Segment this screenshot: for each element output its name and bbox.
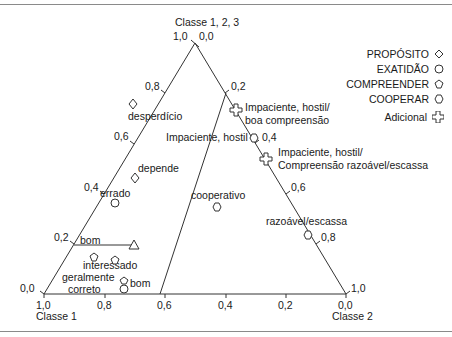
pentagon-icon [90,253,98,261]
bottom-tick-06: 0,6 [157,299,172,311]
pentagon-icon [111,256,119,264]
pentagon-icon [434,79,444,89]
label-impaciente-boa-1: Impaciente, hostil/ [245,101,330,113]
label-impaciente-boa-2: boa compreensão [245,114,329,126]
label-impaciente-raz-2: Compreensão razoável/escassa [278,159,428,171]
legend-item-proposito: PROPÓSITO [330,46,444,61]
label-desperdicio: desperdício [128,110,182,122]
bottom-tick-02: 0,2 [278,299,293,311]
cross-icon [432,111,444,123]
label-bom-top: bom [80,234,101,246]
left-tick-04: 0,4 [84,181,99,193]
cross-icon [230,104,242,116]
right-tick-06: 0,6 [291,181,306,193]
right-tick-08: 0,8 [321,231,336,243]
circle-icon [120,285,128,293]
label-razoavel: razoável/escassa [266,215,347,227]
left-tick-00: 0,0 [20,282,35,294]
pentagon-icon [120,277,128,284]
circle-icon [434,64,444,74]
label-impaciente-hostil: Impaciente, hostil [166,131,248,143]
bottom-right-axis-label: Classe 2 [332,310,373,322]
apex-axis-title: Classe 1, 2, 3 [175,16,239,28]
label-depende: depende [138,162,179,174]
apex-right-tick: 0,0 [199,30,214,42]
circle-icon [111,199,119,207]
right-tick-04: 0,4 [262,131,277,143]
label-cooperativo: cooperativo [191,189,245,201]
diamond-icon [434,49,444,59]
legend: PROPÓSITO EXATIDÃO COMPREENDER COOPERAR … [330,46,444,124]
right-tick-02: 0,2 [231,80,246,92]
left-tick-02: 0,2 [54,231,69,243]
label-geralmente: geralmente [62,271,115,283]
left-tick-08: 0,8 [145,80,160,92]
hexagon-icon [304,231,312,239]
diamond-icon [131,173,139,183]
apex-left-tick: 1,0 [173,30,188,42]
apex-mark [191,40,199,47]
legend-item-compreender: COMPREENDER [330,76,444,91]
hexagon-icon [250,134,258,142]
label-interessado: interessado [83,259,137,271]
legend-item-adicional: Adicional [330,109,444,124]
diamond-icon [129,99,137,109]
hexagon-icon [434,94,444,104]
legend-item-exatidao: EXATIDÃO [330,61,444,76]
legend-item-cooperar: COOPERAR [330,91,444,106]
bottom-tick-08: 0,8 [97,299,112,311]
label-impaciente-raz-1: Impaciente, hostil/ [278,146,363,158]
right-tick-10: 1,0 [351,282,366,294]
label-bom-bottom: bom [130,277,151,289]
label-errado: errado [100,187,131,199]
hexagon-icon [213,203,221,211]
left-tick-06: 0,6 [114,130,129,142]
bottom-left-axis-label: Classe 1 [36,310,77,322]
bottom-tick-04: 0,4 [218,299,233,311]
label-correto: correto [68,283,101,295]
bottom-rule [0,331,452,332]
